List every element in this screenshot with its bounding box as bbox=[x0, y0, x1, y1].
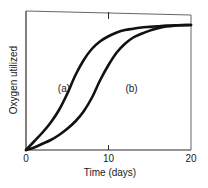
series-line-a bbox=[26, 25, 191, 150]
curve-label: (b) bbox=[125, 83, 137, 94]
oxygen-utilization-chart: 01020 (a)(b) Time (days) Oxygen utilized bbox=[0, 0, 208, 188]
x-tick-label: 0 bbox=[23, 153, 29, 164]
series-line-b bbox=[26, 25, 191, 150]
x-tick-label: 10 bbox=[103, 153, 115, 164]
x-axis-label: Time (days) bbox=[84, 167, 136, 178]
curve-label: (a) bbox=[58, 83, 70, 94]
y-axis-label: Oxygen utilized bbox=[8, 46, 19, 114]
series-group bbox=[26, 25, 191, 150]
plot-frame bbox=[26, 11, 191, 150]
x-tick-label: 20 bbox=[185, 153, 197, 164]
